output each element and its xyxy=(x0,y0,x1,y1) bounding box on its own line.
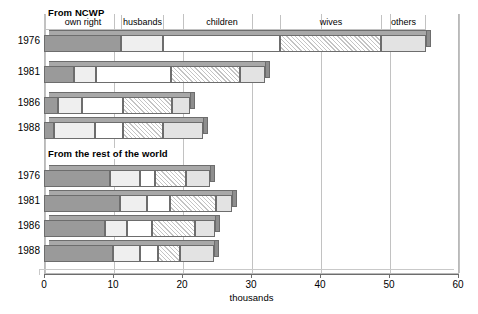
x-tick-label: 50 xyxy=(374,279,404,290)
x-tick-label: 0 xyxy=(29,279,59,290)
axis-depth-tick xyxy=(39,269,40,275)
x-tick xyxy=(320,274,321,278)
chart-root: From NCWP own right husbands children wi… xyxy=(0,0,478,314)
bar-segment-others xyxy=(163,122,203,139)
x-tick-label: 30 xyxy=(236,279,266,290)
bar-right-face xyxy=(215,215,220,232)
bar-segment-children xyxy=(163,35,280,52)
x-tick xyxy=(113,274,114,278)
ytick-label: 1988 xyxy=(6,117,40,139)
group-title-ncwp: From NCWP xyxy=(46,7,106,18)
legend-item-wives: wives xyxy=(280,15,381,30)
x-tick xyxy=(251,274,252,278)
bar-segment-husbands xyxy=(74,66,96,83)
bar-segment-own-right xyxy=(44,195,120,212)
bar-segment-children xyxy=(82,97,123,114)
x-tick-label: 20 xyxy=(167,279,197,290)
ytick-label: 1981 xyxy=(6,190,40,212)
group-title-rest-of-world: From the rest of the world xyxy=(46,148,170,159)
bar-segment-husbands xyxy=(105,220,127,237)
bar-segment-children xyxy=(96,66,171,83)
legend-item-husbands: husbands xyxy=(121,15,163,30)
ytick-label: 1986 xyxy=(6,215,40,237)
bar-right-face xyxy=(210,165,215,182)
bar-segment-own-right xyxy=(44,220,105,237)
bar-segment-children xyxy=(140,170,155,187)
legend-item-others: others xyxy=(381,15,426,30)
bar-segment-children xyxy=(95,122,123,139)
bar-segment-husbands xyxy=(54,122,95,139)
x-tick-label: 40 xyxy=(305,279,335,290)
bar-segment-others xyxy=(195,220,215,237)
bar-segment-own-right xyxy=(44,66,74,83)
ytick-label: 1981 xyxy=(6,61,40,83)
bar-segment-husbands xyxy=(113,245,140,262)
bar-right-face xyxy=(232,190,237,207)
x-tick xyxy=(44,274,45,278)
bar-segment-wives xyxy=(155,170,186,187)
bar-right-face xyxy=(203,117,208,134)
bar-right-face xyxy=(214,240,219,257)
bar-segment-husbands xyxy=(121,35,163,52)
bar-segment-others xyxy=(381,35,426,52)
bar-segment-children xyxy=(147,195,170,212)
bar-segment-own-right xyxy=(44,245,113,262)
bar-segment-wives xyxy=(123,122,163,139)
bar-segment-children xyxy=(140,245,158,262)
ytick-label: 1986 xyxy=(6,92,40,114)
bar-right-face xyxy=(190,92,195,109)
gridline xyxy=(459,14,460,273)
gridline xyxy=(390,14,391,273)
stacked-bar xyxy=(44,170,210,187)
bar-segment-others xyxy=(216,195,232,212)
bar-segment-wives xyxy=(280,35,381,52)
bar-segment-own-right xyxy=(44,170,110,187)
stacked-bar xyxy=(44,35,426,52)
ytick-label: 1976 xyxy=(6,30,40,52)
ytick-label: 1988 xyxy=(6,240,40,262)
axis-depth-line xyxy=(39,269,454,270)
stacked-bar xyxy=(44,66,265,83)
bar-segment-others xyxy=(172,97,190,114)
bar-segment-husbands xyxy=(120,195,147,212)
x-tick xyxy=(458,274,459,278)
bar-segment-wives xyxy=(123,97,172,114)
bar-segment-others xyxy=(180,245,214,262)
legend-item-children: children xyxy=(163,15,280,30)
bar-right-face xyxy=(426,30,431,47)
bar-segment-wives xyxy=(152,220,195,237)
bar-segment-others xyxy=(186,170,210,187)
stacked-bar xyxy=(44,195,232,212)
stacked-bar xyxy=(44,122,203,139)
gridline xyxy=(252,14,253,273)
bar-segment-wives xyxy=(171,66,240,83)
x-tick-label: 60 xyxy=(443,279,473,290)
stacked-bar xyxy=(44,220,215,237)
x-axis-title: thousands xyxy=(44,292,459,303)
bar-segment-own-right xyxy=(44,122,54,139)
bar-segment-wives xyxy=(158,245,180,262)
bar-segment-children xyxy=(127,220,152,237)
x-tick xyxy=(182,274,183,278)
bar-right-face xyxy=(265,61,270,78)
bar-segment-others xyxy=(240,66,265,83)
bar-segment-husbands xyxy=(58,97,82,114)
bar-segment-own-right xyxy=(44,35,121,52)
bar-segment-husbands xyxy=(110,170,140,187)
bar-segment-wives xyxy=(170,195,216,212)
stacked-bar xyxy=(44,245,214,262)
gridline xyxy=(321,14,322,273)
stacked-bar xyxy=(44,97,190,114)
x-tick-label: 10 xyxy=(98,279,128,290)
x-tick xyxy=(389,274,390,278)
bar-segment-own-right xyxy=(44,97,58,114)
ytick-label: 1976 xyxy=(6,165,40,187)
